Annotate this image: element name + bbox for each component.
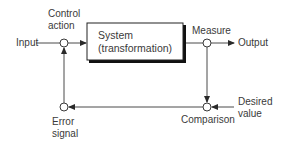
desired-value-label-line1: Desired [238,96,272,107]
error-signal-label-line1: Error [52,116,74,127]
measure-label: Measure [192,25,231,36]
desired-value-label-line2: value [238,108,262,119]
system-label-line2: (transformation) [98,42,172,55]
control-action-label-line2: action [48,20,75,31]
error-signal-node [60,103,68,111]
comparison-node [203,103,211,111]
system-label-line1: System [98,29,133,42]
input-label: Input [16,37,38,48]
diagram-canvas [0,0,286,147]
output-label: Output [238,37,268,48]
control-action-label-line1: Control [48,8,80,19]
control-action-node [60,39,68,47]
error-signal-label-line2: signal [52,128,78,139]
measure-node [203,39,211,47]
comparison-label: Comparison [181,114,235,125]
